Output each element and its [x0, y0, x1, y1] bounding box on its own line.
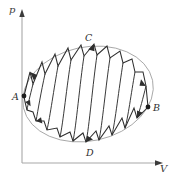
pv-diagram-figure: p V A B C D [0, 0, 174, 181]
inner-curve-group [27, 55, 146, 142]
inner-curve-6 [86, 55, 97, 142]
point-b-dot [146, 105, 151, 110]
inner-curve-3 [47, 66, 58, 130]
envelope-oval [14, 34, 163, 153]
v-axis-label: V [160, 164, 167, 174]
point-a-dot [22, 94, 27, 99]
inner-curve-9 [125, 72, 135, 128]
point-d-label: D [86, 148, 94, 158]
point-a-label: A [12, 92, 19, 102]
inner-curve-5 [73, 56, 84, 141]
envelope-group [14, 34, 163, 153]
point-c-label: C [85, 33, 92, 43]
inner-curve-8 [112, 63, 123, 135]
inner-curve-4 [60, 60, 71, 137]
point-b-label: B [153, 103, 160, 113]
inner-curve-2 [36, 74, 45, 121]
p-axis-arrowhead [19, 9, 24, 17]
p-axis-label: p [9, 5, 15, 15]
inner-curve-1 [27, 84, 33, 110]
